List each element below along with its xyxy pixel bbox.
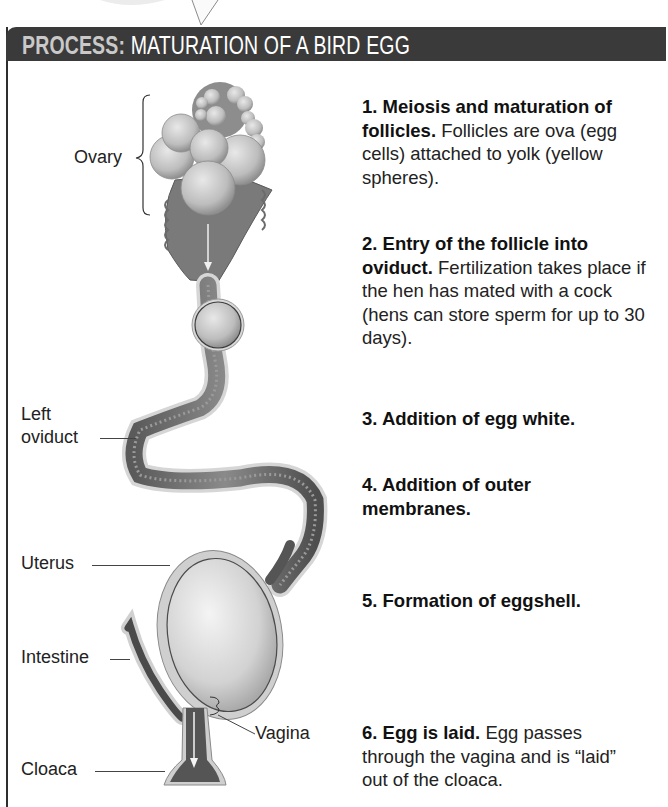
- step-5: 5. Formation of eggshell.: [362, 589, 652, 613]
- oviduct-illustration: [0, 60, 340, 791]
- leader-left-oviduct: [100, 438, 136, 439]
- label-cloaca: Cloaca: [21, 759, 77, 780]
- label-intestine: Intestine: [21, 647, 89, 668]
- step-1: 1. Meiosis and maturation of follicles. …: [362, 95, 652, 189]
- step-6: 6. Egg is laid. Egg passes through the v…: [362, 721, 637, 792]
- label-left-oviduct-line2: oviduct: [21, 427, 78, 448]
- title-prefix: PROCESS:: [22, 31, 125, 59]
- leader-intestine: [110, 659, 130, 660]
- leader-vagina: [215, 712, 257, 738]
- label-left-oviduct-line1: Left: [21, 404, 51, 425]
- step-5-title: 5. Formation of eggshell.: [362, 590, 581, 611]
- step-6-title: 6. Egg is laid.: [362, 722, 480, 743]
- step-4-title: 4. Addition of outer membranes.: [362, 474, 531, 519]
- label-uterus: Uterus: [21, 553, 74, 574]
- label-ovary: Ovary: [74, 147, 122, 168]
- step-3: 3. Addition of egg white.: [362, 407, 652, 431]
- leader-cloaca: [95, 771, 165, 772]
- speech-bubble-tail: [0, 0, 655, 30]
- leader-uterus: [92, 565, 170, 566]
- panel-title: PROCESS: MATURATION OF A BIRD EGG: [22, 31, 410, 59]
- step-2: 2. Entry of the follicle into oviduct. F…: [362, 232, 652, 350]
- title-text: MATURATION OF A BIRD EGG: [131, 31, 410, 59]
- step-4: 4. Addition of outer membranes.: [362, 473, 592, 520]
- step-3-title: 3. Addition of egg white.: [362, 408, 575, 429]
- label-vagina: Vagina: [255, 723, 310, 744]
